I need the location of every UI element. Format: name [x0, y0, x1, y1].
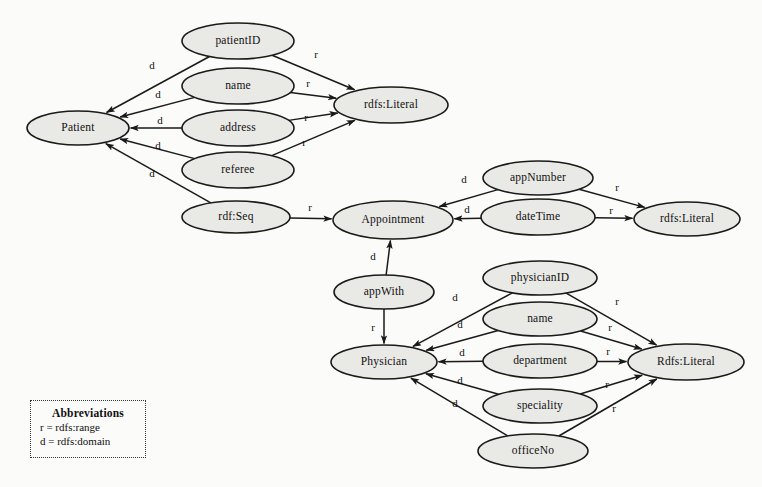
edge-label-e-officeNo-r: r [612, 402, 616, 414]
legend-title: Abbreviations [40, 407, 136, 419]
node-dateTime[interactable]: dateTime [481, 199, 595, 235]
node-label-literalTop: rdfs:Literal [364, 98, 418, 110]
node-label-patientID: patientID [215, 34, 260, 47]
node-label-referee: referee [221, 163, 254, 175]
node-address[interactable]: address [182, 110, 294, 146]
edge-appWith-to-appointment [386, 240, 390, 275]
edge-label-e-department-d: d [459, 346, 465, 358]
edge-label-e-appNumber-r: r [615, 181, 619, 193]
edge-label-e-patientID-d: d [149, 59, 155, 71]
node-label-physicianID: physicianID [511, 271, 569, 284]
node-label-address: address [220, 121, 256, 133]
node-label-patient: Patient [61, 121, 95, 133]
node-label-dateTime: dateTime [516, 210, 561, 222]
edge-dateTime-to-literalMid [595, 218, 633, 219]
node-label-physician: Physician [361, 355, 408, 368]
node-label-speciality: speciality [517, 399, 563, 412]
node-label-appWith: appWith [364, 285, 405, 298]
edge-label-e-physicianID-d: d [452, 291, 458, 303]
edge-label-e-speciality-r: r [605, 378, 609, 390]
node-literalMid[interactable]: rdfs:Literal [634, 202, 740, 236]
legend-line-range: r = rdfs:range [40, 421, 136, 435]
node-label-department: department [513, 354, 567, 367]
edge-label-e-speciality-d: d [457, 374, 463, 386]
edge-name2-to-literalBot [581, 331, 642, 349]
edge-label-e-dateTime-r: r [609, 204, 613, 216]
edge-label-e-referee-d: d [155, 139, 161, 151]
edge-speciality-to-literalBot [580, 375, 642, 394]
edge-label-e-officeNo-d: d [452, 397, 458, 409]
node-physician[interactable]: Physician [331, 345, 437, 379]
edge-label-e-department-r: r [606, 345, 610, 357]
node-literalBot[interactable]: Rdfs:Literal [628, 344, 744, 380]
node-label-officeNo: officeNo [512, 444, 554, 456]
node-label-rdfSeq: rdf:Seq [218, 210, 253, 223]
node-patient[interactable]: Patient [27, 111, 129, 145]
diagram-canvas: PatientpatientIDnameaddressrefereerdf:Se… [0, 0, 762, 487]
node-label-literalBot: Rdfs:Literal [657, 355, 715, 367]
node-label-appNumber: appNumber [510, 171, 566, 184]
node-label-appointment: Appointment [362, 213, 425, 226]
edge-label-e-address-d: d [157, 114, 163, 126]
edge-label-e-name2-d: d [457, 318, 463, 330]
node-department[interactable]: department [483, 344, 597, 378]
node-officeNo[interactable]: officeNo [478, 434, 588, 468]
node-literalTop[interactable]: rdfs:Literal [334, 87, 448, 123]
edge-label-e-name2-r: r [608, 321, 612, 333]
node-rdfSeq[interactable]: rdf:Seq [182, 201, 290, 233]
node-label-name1: name [225, 79, 251, 91]
edge-rdfSeq-to-appointment [290, 218, 332, 219]
legend-line-domain: d = rdfs:domain [40, 435, 136, 449]
node-name1[interactable]: name [182, 68, 294, 104]
node-appointment[interactable]: Appointment [333, 201, 453, 239]
node-appWith[interactable]: appWith [334, 275, 434, 309]
edge-label-e-address-r: r [304, 111, 308, 123]
edge-label-e-rdfSeq-r: r [308, 201, 312, 213]
node-physicianID[interactable]: physicianID [483, 261, 597, 295]
edge-label-e-referee-r: r [302, 136, 306, 148]
legend-abbreviations: Abbreviations r = rdfs:range d = rdfs:do… [30, 400, 146, 458]
edge-label-e-name1-r: r [306, 77, 310, 89]
node-name2[interactable]: name [483, 302, 597, 336]
node-appNumber[interactable]: appNumber [483, 161, 593, 195]
edge-label-e-appWith-d: d [370, 250, 376, 262]
edge-label-e-appNumber-d: d [461, 173, 467, 185]
node-referee[interactable]: referee [182, 152, 294, 188]
edge-label-e-name1-d: d [155, 88, 161, 100]
edge-address-to-literalTop [289, 113, 338, 120]
edge-label-e-appWith-r: r [371, 321, 375, 333]
edge-name1-to-literalTop [290, 92, 336, 98]
edge-label-e-physicianID-r: r [615, 295, 619, 307]
node-patientID[interactable]: patientID [182, 23, 294, 59]
edge-label-e-rdfSeq-d: d [149, 167, 155, 179]
edge-label-e-dateTime-d: d [464, 203, 470, 215]
edge-dateTime-to-appointment [454, 218, 481, 219]
node-label-name2: name [527, 312, 553, 324]
node-label-literalMid: rdfs:Literal [660, 212, 714, 224]
node-speciality[interactable]: speciality [483, 389, 597, 423]
edge-label-e-patientID-r: r [314, 48, 318, 60]
